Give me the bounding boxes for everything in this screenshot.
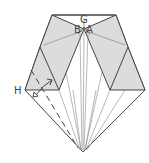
label-b: B xyxy=(74,25,81,35)
label-h: H xyxy=(14,86,22,96)
label-a: A xyxy=(86,25,93,35)
